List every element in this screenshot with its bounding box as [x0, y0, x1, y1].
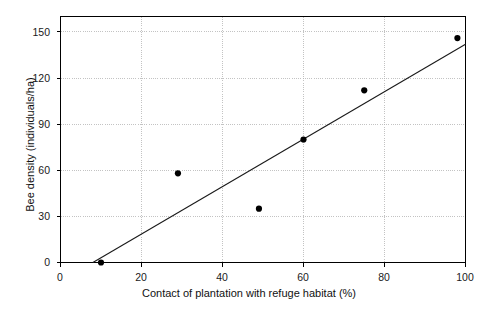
x-tick-label-60: 60: [283, 272, 323, 283]
x-tick-label-20: 20: [121, 272, 161, 283]
x-tick-label-100: 100: [445, 272, 485, 283]
data-point-1: [175, 170, 181, 176]
data-point-3: [300, 136, 306, 142]
trend-line: [93, 44, 466, 262]
data-point-0: [98, 259, 104, 265]
scatter-plot-figure: 0 30 60 90 120 150 0 20 40 60 80 100 Con…: [0, 0, 498, 317]
plot-canvas: [0, 0, 498, 317]
x-tick-label-80: 80: [364, 272, 404, 283]
data-point-5: [454, 35, 460, 41]
y-axis-title: Bee density (individuals/ha): [25, 20, 36, 270]
data-point-2: [256, 206, 262, 212]
data-point-4: [361, 87, 367, 93]
x-axis-title: Contact of plantation with refuge habita…: [0, 288, 498, 299]
x-tick-label-40: 40: [202, 272, 242, 283]
x-tick-label-0: 0: [40, 272, 80, 283]
plot-frame: [61, 17, 466, 263]
